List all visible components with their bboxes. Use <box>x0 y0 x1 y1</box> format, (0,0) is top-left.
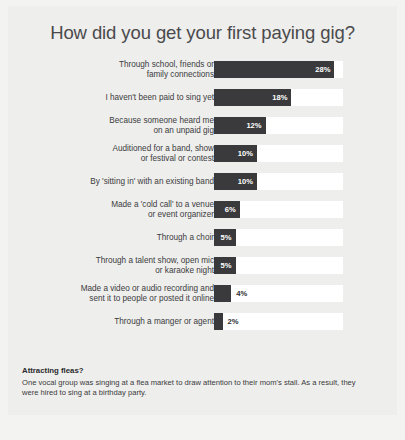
bar: 10% <box>214 173 257 190</box>
bar-row: I haven't been paid to sing yet18% <box>8 88 397 116</box>
bar-row-label-line: Through a manger or agent <box>54 317 214 327</box>
footnote-body: One vocal group was singing at a flea ma… <box>22 378 372 399</box>
bar-row-label: Auditioned for a band, showor festival o… <box>54 144 214 163</box>
bar-row-label-line: I haven't been paid to sing yet <box>54 93 214 103</box>
bar-track: 28% <box>214 61 343 78</box>
bar-value-label: 5% <box>221 229 232 246</box>
bar-track: 18% <box>214 89 343 106</box>
bar-row-label: Through a choir <box>54 233 214 243</box>
footnote-heading: Attracting fleas? <box>22 366 372 375</box>
bar-row: Through a choir5% <box>8 228 397 256</box>
bar-row: Made a video or audio recording andsent … <box>8 284 397 312</box>
bar-row-label-line: Auditioned for a band, show <box>54 144 214 154</box>
chart-title: How did you get your first paying gig? <box>8 22 397 44</box>
bar-row-label-line: Because someone heard me <box>54 116 214 126</box>
bar-track: 2% <box>214 313 343 330</box>
bar-row-label-line: or event organizer <box>54 210 214 220</box>
bar-row-label-line: on an unpaid gig <box>54 126 214 136</box>
bar <box>214 285 231 302</box>
footnote-block: Attracting fleas? One vocal group was si… <box>22 366 372 399</box>
bar-row-label-line: Made a 'cold call' to a venue <box>54 200 214 210</box>
bar <box>214 313 223 330</box>
bar-row-label: Through school, friends orfamily connect… <box>54 60 214 79</box>
bar-row-label: Made a video or audio recording andsent … <box>54 284 214 303</box>
bar: 10% <box>214 145 257 162</box>
bar-row-label-line: Through school, friends or <box>54 60 214 70</box>
bar-track: 4% <box>214 285 343 302</box>
bar-value-label: 6% <box>225 201 236 218</box>
bar-row-label: Made a 'cold call' to a venueor event or… <box>54 200 214 219</box>
bar-row-label: Because someone heard meon an unpaid gig <box>54 116 214 135</box>
bar-value-label: 2% <box>228 313 239 330</box>
bar-row-label-line: By 'sitting in' with an existing band <box>54 177 214 187</box>
bar-row-label: Through a talent show, open micor karaok… <box>54 256 214 275</box>
bar: 5% <box>214 257 236 274</box>
bar-row-label-line: or karaoke night <box>54 266 214 276</box>
bar-row-label-line: family connections <box>54 70 214 80</box>
bar-row: By 'sitting in' with an existing band10% <box>8 172 397 200</box>
bar-row: Through school, friends orfamily connect… <box>8 60 397 88</box>
bar-row: Made a 'cold call' to a venueor event or… <box>8 200 397 228</box>
bar-track: 5% <box>214 257 343 274</box>
bar-track: 10% <box>214 145 343 162</box>
bar-chart: Through school, friends orfamily connect… <box>8 60 397 340</box>
bar-track: 6% <box>214 201 343 218</box>
bar: 6% <box>214 201 240 218</box>
bar: 18% <box>214 89 291 106</box>
bar-row-label-line: Through a talent show, open mic <box>54 256 214 266</box>
bar-row: Through a manger or agent2% <box>8 312 397 340</box>
bar-row-label-line: Made a video or audio recording and <box>54 284 214 294</box>
bar: 5% <box>214 229 236 246</box>
bar-value-label: 10% <box>238 145 253 162</box>
bar-row-label: I haven't been paid to sing yet <box>54 93 214 103</box>
bar-row: Because someone heard meon an unpaid gig… <box>8 116 397 144</box>
bar-value-label: 10% <box>238 173 253 190</box>
bar-track: 5% <box>214 229 343 246</box>
bar-row: Through a talent show, open micor karaok… <box>8 256 397 284</box>
bar-value-label: 28% <box>315 61 330 78</box>
bar-row-label-line: or festival or contest <box>54 154 214 164</box>
bar-track: 12% <box>214 117 343 134</box>
bar-value-label: 12% <box>246 117 261 134</box>
bar-row-label: By 'sitting in' with an existing band <box>54 177 214 187</box>
bar-row-label-line: sent it to people or posted it online <box>54 294 214 304</box>
bar-track: 10% <box>214 173 343 190</box>
chart-card: How did you get your first paying gig? T… <box>8 6 397 415</box>
bar-value-label: 5% <box>221 257 232 274</box>
bar: 12% <box>214 117 266 134</box>
bar-row: Auditioned for a band, showor festival o… <box>8 144 397 172</box>
bar-row-label: Through a manger or agent <box>54 317 214 327</box>
bar: 28% <box>214 61 334 78</box>
bar-row-label-line: Through a choir <box>54 233 214 243</box>
infographic-container: How did you get your first paying gig? T… <box>0 0 405 440</box>
bar-value-label: 18% <box>272 89 287 106</box>
bar-value-label: 4% <box>236 285 247 302</box>
